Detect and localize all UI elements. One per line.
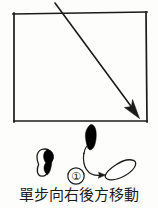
- step-number-label: ①: [71, 170, 81, 183]
- figure-caption: 單步向右後方移動: [0, 186, 158, 204]
- practice-floor-rectangle: [13, 12, 147, 122]
- right-foot-outline-end: [105, 160, 136, 180]
- diagram-canvas: ①: [0, 0, 158, 208]
- left-foot-outline: [37, 149, 53, 176]
- step-movement-arrow: [83, 153, 105, 178]
- footwork-diagram: ① 單步向右後方移動: [0, 0, 158, 208]
- diagonal-direction-arrow: [55, 3, 140, 119]
- step-number-badge: ①: [68, 168, 84, 184]
- right-foot-solid-start: [84, 124, 96, 153]
